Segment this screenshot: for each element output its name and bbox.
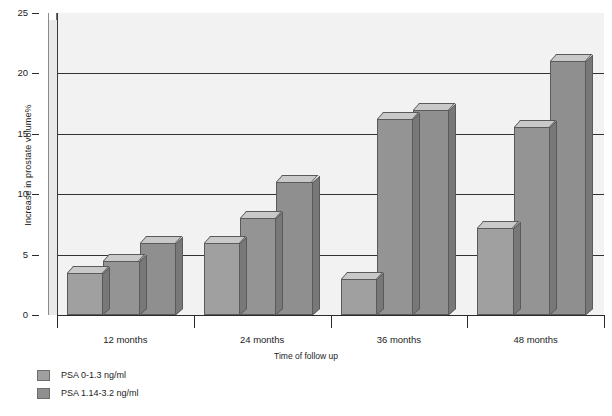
bar-top-face [341, 272, 384, 279]
y-tick-mark [32, 194, 39, 195]
bar-side-face [313, 176, 320, 315]
y-tick-label: 0 [2, 309, 28, 320]
bar-top-face [276, 175, 319, 182]
bar-side-face [377, 272, 384, 315]
legend-item: PSA 0-1.3 ng/ml [37, 366, 337, 384]
x-axis-title: Time of follow up [0, 351, 612, 361]
x-axis-category-label: 36 months [331, 334, 468, 345]
x-axis-category-label: 12 months [57, 334, 194, 345]
bar-side-face [140, 254, 147, 315]
bar-side-face [276, 212, 283, 315]
y-tick-mark [32, 134, 39, 135]
x-axis-category-label: 24 months [194, 334, 331, 345]
y-tick-mark [32, 315, 39, 316]
x-tick-mark [194, 315, 195, 328]
bar-top-face [204, 236, 247, 243]
legend-label: PSA 0-1.3 ng/ml [61, 370, 126, 380]
bar-front-face [67, 273, 103, 315]
y-tick-mark [32, 13, 39, 14]
bar [204, 243, 240, 315]
bar-side-face [103, 266, 110, 315]
y-tick-label: 5 [2, 249, 28, 260]
y-axis-line [57, 13, 58, 315]
bar-top-face [140, 236, 183, 243]
legend-swatch [37, 370, 50, 381]
bar-top-face [550, 54, 593, 61]
bar-top-face [514, 120, 557, 127]
x-axis-category-label: 48 months [467, 334, 604, 345]
y-tick-label: 15 [2, 128, 28, 139]
x-tick-mark [331, 315, 332, 328]
bar-side-face [550, 120, 557, 315]
y-tick-mark [32, 255, 39, 256]
bar-top-face [240, 211, 283, 218]
x-tick-mark [604, 315, 605, 328]
plot-area [48, 13, 604, 315]
bar-top-face [103, 254, 146, 261]
bar [477, 228, 513, 315]
bar-top-face [377, 112, 420, 119]
y-tick-mark [32, 73, 39, 74]
bar-front-face [341, 279, 377, 315]
bar-top-face [67, 266, 110, 273]
bar-front-face [477, 228, 513, 315]
x-tick-mark [57, 315, 58, 328]
y-tick-label: 20 [2, 67, 28, 78]
bar-side-face [240, 236, 247, 315]
bar-side-face [176, 236, 183, 315]
chart-legend: PSA 0-1.3 ng/mlPSA 1.14-3.2 ng/ml [37, 366, 337, 402]
bar-side-face [514, 222, 521, 315]
legend-swatch [37, 388, 50, 399]
bar-chart: Increase in prostate volume% 2520151050 … [0, 0, 612, 416]
bar-side-face [449, 103, 456, 315]
bar [67, 273, 103, 315]
legend-item: PSA 1.14-3.2 ng/ml [37, 384, 337, 402]
x-tick-mark [467, 315, 468, 328]
bar-side-face [413, 113, 420, 315]
plot-wall-edge [48, 13, 49, 315]
y-tick-label: 10 [2, 188, 28, 199]
bar-side-face [586, 55, 593, 315]
bar-front-face [204, 243, 240, 315]
gridline [57, 73, 604, 74]
bar-top-face [477, 221, 520, 228]
bar [341, 279, 377, 315]
bar-top-face [413, 103, 456, 110]
legend-label: PSA 1.14-3.2 ng/ml [61, 388, 139, 398]
plot-left-wall [48, 20, 57, 315]
y-tick-label: 25 [2, 7, 28, 18]
